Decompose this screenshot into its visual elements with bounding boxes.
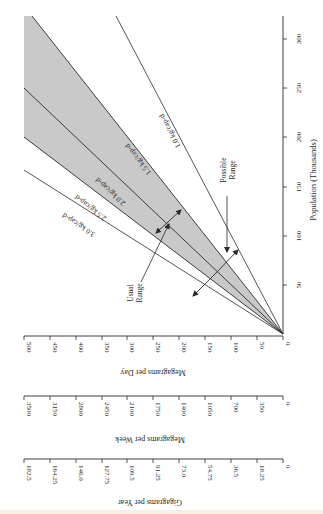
day-tick: 500 bbox=[25, 342, 33, 353]
year-tick: 182.5 bbox=[25, 465, 33, 481]
line-2-5 bbox=[24, 137, 283, 334]
year-tick: 0 bbox=[284, 465, 292, 469]
week-tick: 1400 bbox=[180, 402, 188, 417]
usual-range-label-1: Usual bbox=[126, 284, 135, 302]
day-tick: 350 bbox=[103, 342, 111, 353]
day-tick: 200 bbox=[180, 342, 188, 353]
pop-tick: 200 bbox=[295, 131, 303, 142]
day-tick: 50 bbox=[258, 342, 266, 350]
day-tick: 150 bbox=[206, 342, 214, 353]
pop-axis-title: Population (Thousands) bbox=[308, 139, 318, 221]
week-tick: 350 bbox=[258, 402, 266, 413]
year-tick: 164.25 bbox=[51, 465, 59, 485]
week-tick: 1050 bbox=[206, 402, 214, 417]
pop-tick: 100 bbox=[295, 230, 303, 241]
year-tick: 109.5 bbox=[128, 465, 136, 481]
week-axis: 3500 3150 2800 2450 2100 1750 1400 1050 … bbox=[24, 396, 292, 444]
year-tick: 91.25 bbox=[154, 465, 162, 481]
day-axis-title: Megagrams per Day bbox=[120, 368, 185, 377]
line-1-5 bbox=[32, 16, 283, 334]
year-tick: 127.75 bbox=[103, 465, 111, 485]
year-tick: 146.0 bbox=[77, 465, 85, 481]
day-tick: 400 bbox=[77, 342, 85, 353]
pop-tick: 250 bbox=[295, 82, 303, 93]
week-tick: 2100 bbox=[128, 402, 136, 417]
year-tick: 18.25 bbox=[258, 465, 266, 481]
day-tick: 450 bbox=[51, 342, 59, 353]
week-tick: 1750 bbox=[154, 402, 162, 417]
usual-range-shade bbox=[24, 16, 283, 334]
possible-range-arrow bbox=[193, 273, 216, 296]
page-edge bbox=[0, 510, 323, 514]
population-axis: 50 100 150 200 250 300 Population (Thous… bbox=[283, 16, 318, 334]
possible-range-label-1: Possible bbox=[219, 157, 228, 183]
week-tick: 0 bbox=[284, 402, 292, 406]
week-tick: 2450 bbox=[103, 402, 111, 417]
week-axis-title: Megagrams per Week bbox=[115, 435, 185, 444]
week-tick: 3150 bbox=[51, 402, 59, 417]
week-tick: 2800 bbox=[77, 402, 85, 417]
year-axis-title: Gigagrams per Year bbox=[118, 498, 182, 507]
week-tick: 700 bbox=[232, 402, 240, 413]
possible-range-label-2: Range bbox=[228, 160, 237, 180]
waste-generation-chart: 1.0 kg/cap-d 1.5 kg/cap-d 2.0 kg/cap-d 2… bbox=[0, 0, 323, 514]
year-tick: 54.75 bbox=[206, 465, 214, 481]
year-tick: 36.5 bbox=[232, 465, 240, 478]
day-axis: 500 450 400 350 300 250 200 150 100 50 0… bbox=[24, 336, 292, 377]
day-tick: 0 bbox=[284, 342, 292, 346]
year-axis: 182.5 164.25 146.0 127.75 109.5 91.25 73… bbox=[24, 459, 292, 507]
day-tick: 300 bbox=[128, 342, 136, 353]
year-tick: 73.0 bbox=[180, 465, 188, 478]
usual-range-label-2: Range bbox=[135, 283, 144, 303]
pop-tick: 50 bbox=[295, 281, 303, 289]
pop-tick: 300 bbox=[295, 33, 303, 44]
day-tick: 100 bbox=[232, 342, 240, 353]
week-tick: 3500 bbox=[25, 402, 33, 417]
day-tick: 250 bbox=[154, 342, 162, 353]
pop-tick: 150 bbox=[295, 181, 303, 192]
line-2-0 bbox=[24, 88, 283, 334]
